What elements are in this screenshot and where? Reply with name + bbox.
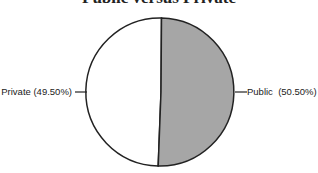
pie-chart: Private (49.50%) Public (50.50%) bbox=[0, 0, 318, 173]
pie-slice-public bbox=[158, 18, 234, 166]
label-public: Public (50.50%) bbox=[247, 86, 317, 97]
label-private: Private (49.50%) bbox=[1, 86, 72, 97]
pie-slice-private bbox=[86, 18, 162, 166]
